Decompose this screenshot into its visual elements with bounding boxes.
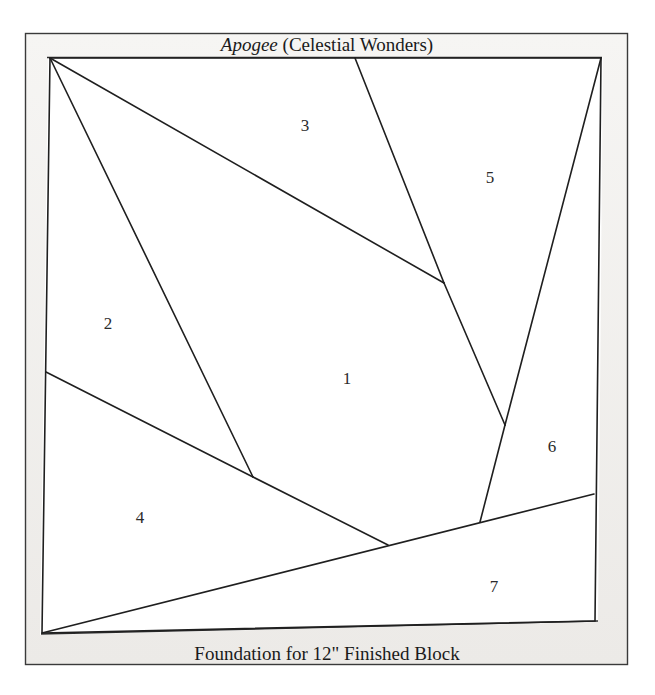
foundation-pattern-drawing: Apogee (Celestial Wonders) Foundation fo…	[0, 0, 655, 695]
inner-block-area	[40, 57, 603, 635]
piece-label-6: 6	[548, 437, 557, 456]
pattern-sheet: Apogee (Celestial Wonders) Foundation fo…	[0, 0, 655, 695]
piece-label-3: 3	[301, 116, 310, 135]
piece-label-5: 5	[486, 168, 495, 187]
piece-label-4: 4	[136, 508, 145, 527]
piece-label-7: 7	[490, 577, 499, 596]
pattern-title-rest: (Celestial Wonders)	[278, 34, 433, 56]
pattern-footer-caption: Foundation for 12" Finished Block	[194, 643, 460, 664]
piece-label-2: 2	[104, 314, 113, 333]
pattern-title: Apogee (Celestial Wonders)	[219, 34, 433, 56]
piece-label-1: 1	[343, 369, 352, 388]
pattern-title-italic: Apogee	[219, 34, 278, 55]
